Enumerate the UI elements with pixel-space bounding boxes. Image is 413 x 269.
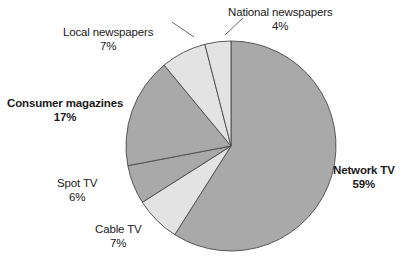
- pie-slice-group: [126, 41, 336, 251]
- slice-label-network-tv-name: Network TV: [333, 163, 395, 177]
- leader-line-local-newspapers: [172, 22, 194, 37]
- pie-chart-graphic: [0, 0, 413, 269]
- slice-label-consumer-magazines-name: Consumer magazines: [7, 96, 123, 110]
- slice-label-local-newspapers: Local newspapers 7%: [63, 25, 153, 53]
- slice-label-consumer-magazines: Consumer magazines 17%: [7, 96, 123, 124]
- slice-label-local-newspapers-value: 7%: [63, 39, 153, 53]
- slice-label-network-tv-value: 59%: [333, 177, 395, 191]
- slice-label-national-newspapers: National newspapers 4%: [228, 5, 333, 33]
- slice-label-cable-tv-name: Cable TV: [95, 222, 142, 236]
- pie-chart-figure: National newspapers 4% Local newspapers …: [0, 0, 413, 269]
- slice-label-network-tv: Network TV 59%: [333, 163, 395, 191]
- slice-label-cable-tv: Cable TV 7%: [95, 222, 142, 250]
- slice-label-spot-tv-name: Spot TV: [57, 176, 97, 190]
- slice-label-cable-tv-value: 7%: [95, 236, 142, 250]
- slice-label-consumer-magazines-value: 17%: [7, 110, 123, 124]
- slice-label-spot-tv: Spot TV 6%: [57, 176, 97, 204]
- slice-label-local-newspapers-name: Local newspapers: [63, 25, 153, 39]
- slice-label-national-newspapers-value: 4%: [228, 19, 333, 33]
- slice-label-national-newspapers-name: National newspapers: [228, 5, 333, 19]
- slice-label-spot-tv-value: 6%: [57, 190, 97, 204]
